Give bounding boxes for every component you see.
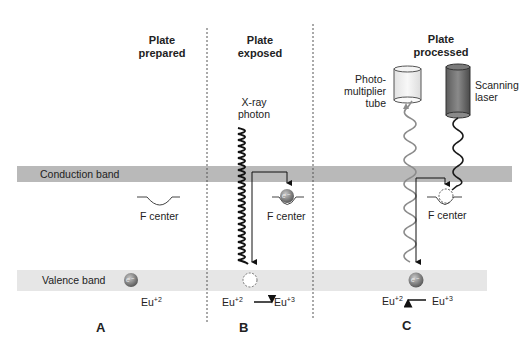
europium-label-c-left: Eu+2	[382, 295, 403, 307]
scanning-laser-label: Scanning laser	[475, 79, 519, 103]
xray-photon-wave	[238, 128, 248, 264]
emitted-light-wave	[404, 101, 416, 262]
f-center-label: F center	[267, 210, 306, 222]
panel-label-a: A	[96, 320, 105, 335]
electron-label: e⁻	[411, 274, 419, 286]
panel-label-b: B	[239, 320, 248, 335]
stage-title-exposed: Plate exposed	[228, 34, 292, 60]
europium-label-b-right: Eu+3	[274, 296, 295, 308]
f-center-label: F center	[140, 210, 179, 222]
photomultiplier-tube	[394, 66, 421, 103]
valence-band-label: Valence band	[42, 274, 105, 286]
stage-title-prepared: Plate prepared	[130, 34, 194, 60]
scanning-laser	[446, 64, 470, 118]
electron-hole	[439, 189, 453, 203]
panel-label-c: C	[402, 318, 411, 333]
electron-hole	[243, 273, 257, 287]
f-center-well	[137, 197, 180, 205]
xray-photon-label: X-ray photon	[234, 96, 274, 120]
europium-label-c-right: Eu+3	[432, 295, 453, 307]
laser-wave	[452, 118, 463, 190]
electron-label: e⁻	[282, 190, 290, 202]
photomultiplier-label: Photo- multiplier tube	[338, 73, 386, 109]
stage-title-processed: Plate processed	[406, 33, 476, 59]
conduction-band-label: Conduction band	[40, 168, 119, 180]
europium-label-a: Eu+2	[141, 296, 162, 308]
electron-label: e⁻	[126, 274, 134, 286]
f-center-label: F center	[428, 209, 467, 221]
europium-label-b-left: Eu+2	[222, 296, 243, 308]
